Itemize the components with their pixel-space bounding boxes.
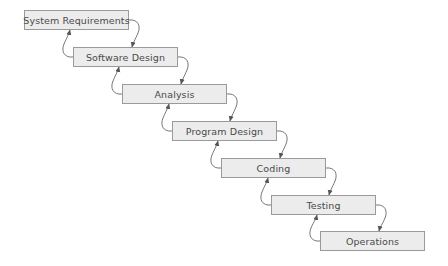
feedback-arrow: [112, 67, 122, 94]
stage-system-requirements: System Requirements: [24, 10, 129, 30]
stage-testing: Testing: [271, 195, 376, 215]
forward-arrow: [178, 57, 188, 84]
stage-label: Software Design: [86, 52, 165, 63]
forward-arrow: [227, 94, 237, 121]
forward-arrow: [277, 131, 287, 158]
stage-coding: Coding: [221, 158, 326, 178]
feedback-arrow: [261, 178, 271, 205]
forward-arrow: [326, 168, 336, 195]
stage-label: Analysis: [155, 89, 195, 100]
stage-label: Operations: [346, 236, 399, 247]
feedback-arrow: [162, 104, 172, 131]
forward-arrow: [129, 20, 139, 47]
stage-program-design: Program Design: [172, 121, 277, 141]
stage-software-design: Software Design: [73, 47, 178, 67]
forward-arrow: [376, 205, 386, 231]
stage-label: Program Design: [186, 126, 263, 137]
feedback-arrow: [310, 215, 320, 241]
stage-operations: Operations: [320, 231, 425, 251]
stage-label: System Requirements: [23, 15, 129, 26]
stage-analysis: Analysis: [122, 84, 227, 104]
stage-label: Testing: [306, 200, 340, 211]
waterfall-diagram: System Requirements Software Design Anal…: [0, 0, 448, 266]
feedback-arrow: [211, 141, 221, 168]
feedback-arrow: [63, 30, 73, 57]
stage-label: Coding: [257, 163, 291, 174]
